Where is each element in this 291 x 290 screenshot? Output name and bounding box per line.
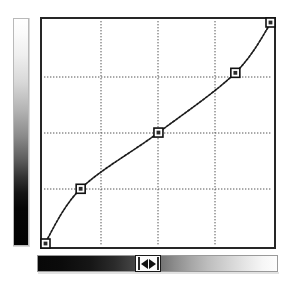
control-point-2[interactable] bbox=[154, 128, 163, 137]
control-point-4[interactable] bbox=[266, 18, 275, 27]
control-point-3[interactable] bbox=[231, 68, 240, 77]
curve-graph-canvas[interactable] bbox=[40, 17, 276, 249]
handle-right-edge bbox=[157, 257, 159, 270]
input-tone-ramp-bevel bbox=[38, 272, 279, 274]
control-point-0[interactable] bbox=[41, 239, 50, 248]
arrow-left-icon[interactable] bbox=[141, 259, 148, 269]
input-ramp-row[interactable] bbox=[37, 255, 278, 274]
control-point-1[interactable] bbox=[76, 184, 85, 193]
gamma-slider-handle[interactable] bbox=[135, 255, 161, 272]
output-tone-ramp bbox=[13, 18, 29, 246]
curves-adjustment-panel bbox=[0, 0, 291, 290]
arrow-right-icon[interactable] bbox=[149, 259, 156, 269]
handle-left-edge bbox=[138, 257, 140, 270]
curve-graph[interactable] bbox=[40, 17, 276, 249]
